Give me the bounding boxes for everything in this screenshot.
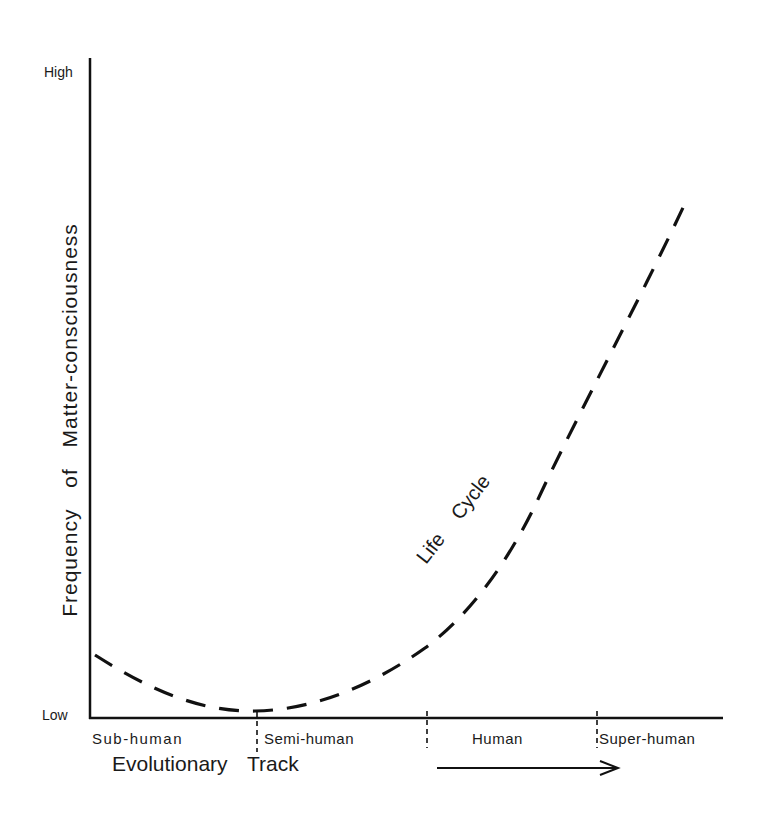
x-axis-title: Evolutionary Track [112, 752, 299, 776]
y-tick-high: High [44, 64, 73, 80]
segment-label-super-human: Super-human [599, 730, 695, 747]
segment-label-semi-human: Semi-human [264, 730, 354, 747]
y-axis-title: Frequency of Matter-consciousness [58, 223, 82, 617]
life-cycle-curve [95, 197, 688, 711]
segment-label-human: Human [472, 730, 523, 747]
chart-canvas [0, 0, 761, 837]
y-tick-low: Low [42, 707, 68, 723]
segment-label-sub-human: Sub-human [92, 730, 183, 747]
